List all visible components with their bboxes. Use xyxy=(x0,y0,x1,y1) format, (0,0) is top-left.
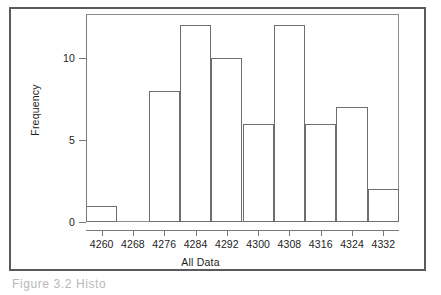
y-axis-line xyxy=(86,14,87,222)
histogram-bar xyxy=(180,25,211,222)
x-axis-tick xyxy=(164,230,165,236)
x-axis-title-label: All Data xyxy=(181,256,219,268)
x-axis-tick xyxy=(196,230,197,236)
histogram-bar xyxy=(274,25,305,222)
x-axis-tick xyxy=(227,230,228,236)
x-axis-tick xyxy=(133,230,134,236)
y-axis-title: Frequency xyxy=(29,55,41,165)
histogram-bar xyxy=(368,189,399,222)
histogram-bar xyxy=(86,206,117,222)
y-axis-tick-label: 10 xyxy=(35,53,75,64)
histogram-bar xyxy=(243,124,274,222)
y-axis-tick xyxy=(79,140,86,141)
x-axis-tick xyxy=(321,230,322,236)
x-axis-tick xyxy=(289,230,290,236)
histogram-bar xyxy=(336,107,367,222)
histogram-bar xyxy=(211,58,242,222)
histogram-bar xyxy=(149,91,180,222)
y-axis-tick xyxy=(79,58,86,59)
x-axis-tick xyxy=(352,230,353,236)
histogram-bars xyxy=(86,14,399,222)
x-axis-title: All Data xyxy=(0,256,441,268)
histogram-bar xyxy=(305,124,336,222)
y-axis-tick-label: 5 xyxy=(35,135,75,146)
y-axis-tick xyxy=(79,222,86,223)
x-axis-tick-label: 4332 xyxy=(363,239,403,250)
figure-caption: Figure 3.2 Histo xyxy=(12,277,232,291)
x-axis-tick xyxy=(383,230,384,236)
y-axis-tick-label: 0 xyxy=(35,217,75,228)
x-axis-tick xyxy=(258,230,259,236)
x-axis-tick xyxy=(102,230,103,236)
